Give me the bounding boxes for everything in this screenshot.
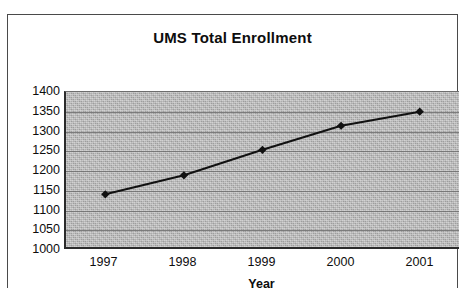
data-point-marker bbox=[337, 122, 345, 130]
y-axis-tick-label: 1100 bbox=[14, 204, 60, 216]
plot-area bbox=[64, 91, 459, 249]
x-axis-tick-label: 2000 bbox=[301, 255, 380, 271]
y-axis-tick-label: 1400 bbox=[14, 85, 60, 97]
y-axis-tick-label: 1300 bbox=[14, 125, 60, 137]
x-axis-title: Year bbox=[64, 277, 459, 288]
x-axis-tick-label: 1998 bbox=[143, 255, 222, 271]
x-axis-tick-label: 1999 bbox=[222, 255, 301, 271]
chart-title: UMS Total Enrollment bbox=[8, 29, 457, 46]
y-axis-tick-label: 1350 bbox=[14, 105, 60, 117]
data-series-line bbox=[66, 92, 459, 247]
x-axis-tick-label: 2001 bbox=[380, 255, 459, 271]
chart-frame: UMS Total Enrollment 1400135013001250120… bbox=[7, 14, 458, 288]
y-axis-tick-label: 1150 bbox=[14, 184, 60, 196]
y-axis-tick-label: 1200 bbox=[14, 164, 60, 176]
y-axis-tick-label: 1000 bbox=[14, 243, 60, 255]
data-point-marker bbox=[416, 108, 424, 116]
data-point-marker bbox=[101, 190, 109, 198]
data-point-marker bbox=[258, 146, 266, 154]
y-axis-tick-label: 1250 bbox=[14, 144, 60, 156]
y-axis-tick-label: 1050 bbox=[14, 223, 60, 235]
x-axis-labels: 19971998199920002001 bbox=[64, 255, 459, 271]
x-axis-tick-label: 1997 bbox=[64, 255, 143, 271]
y-axis-labels: 140013501300125012001150110010501000 bbox=[12, 91, 60, 249]
data-point-marker bbox=[180, 171, 188, 179]
